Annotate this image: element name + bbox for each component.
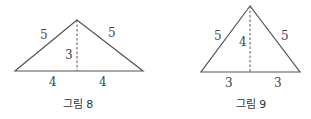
triangle-8	[15, 20, 143, 71]
height-label-8: 3	[65, 48, 73, 62]
height-label-9: 4	[239, 35, 247, 49]
base-right-label-9: 3	[274, 76, 282, 90]
caption-9: 그림 9	[236, 98, 267, 111]
caption-8: 그림 8	[63, 98, 94, 111]
right-side-label-8: 5	[108, 26, 116, 40]
base-right-label-8: 4	[99, 75, 107, 89]
right-side-label-9: 5	[281, 29, 289, 43]
figure-8: 5 5 3 4 4 그림 8	[15, 20, 143, 111]
left-side-label-8: 5	[40, 28, 48, 42]
left-side-label-9: 5	[214, 29, 222, 43]
base-left-label-9: 3	[225, 76, 233, 90]
base-left-label-8: 4	[49, 75, 57, 89]
figure-9: 5 5 4 3 3 그림 9	[201, 6, 300, 111]
diagram-canvas: 5 5 3 4 4 그림 8 5 5 4 3 3 그림 9	[0, 0, 311, 119]
